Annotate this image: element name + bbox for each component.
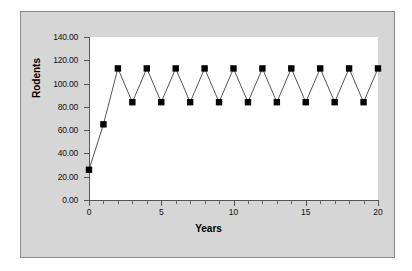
data-point-marker (230, 65, 236, 71)
data-point-marker (129, 99, 135, 105)
data-point-marker (274, 99, 280, 105)
data-point-marker (187, 99, 193, 105)
data-point-marker (201, 65, 207, 71)
x-axis-title: Years (21, 223, 396, 234)
data-point-marker (115, 65, 121, 71)
data-point-marker (144, 65, 150, 71)
data-point-marker (288, 65, 294, 71)
chart-figure: 0.0020.0040.0060.0080.00100.00120.00140.… (20, 11, 395, 258)
data-point-marker (346, 65, 352, 71)
series-line (89, 68, 378, 169)
data-point-marker (303, 99, 309, 105)
data-point-marker (259, 65, 265, 71)
data-series-rodents (21, 12, 396, 259)
data-point-marker (245, 99, 251, 105)
data-point-marker (216, 99, 222, 105)
data-point-marker (158, 99, 164, 105)
data-point-marker (100, 121, 106, 127)
data-point-marker (360, 99, 366, 105)
data-point-marker (331, 99, 337, 105)
data-point-marker (375, 65, 381, 71)
data-point-marker (86, 167, 92, 173)
y-axis-title: Rodents (31, 58, 42, 98)
data-point-marker (173, 65, 179, 71)
data-point-marker (317, 65, 323, 71)
